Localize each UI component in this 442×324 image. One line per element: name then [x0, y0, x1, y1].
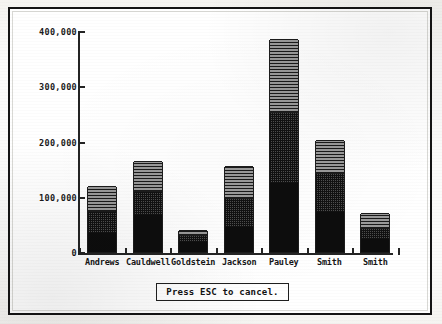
status-prompt-box[interactable]: Press ESC to cancel. [156, 283, 289, 301]
window-inner-bevel [12, 11, 428, 311]
application-window-frame [8, 7, 432, 315]
screenshot-root: 400,000300,000200,000100,0000 AndrewsCau… [0, 0, 442, 324]
status-prompt-text: Press ESC to cancel. [166, 287, 278, 297]
